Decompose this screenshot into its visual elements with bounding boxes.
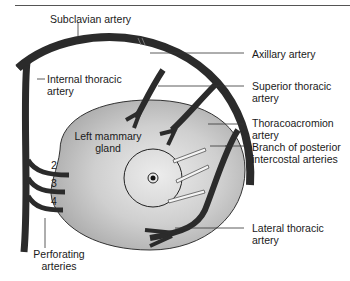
label-superior-thoracic-line1: Superior thoracic: [252, 80, 331, 92]
label-lateral-thoracic-line1: Lateral thoracic: [252, 222, 324, 234]
intercostal-number-4: 4: [51, 195, 57, 207]
label-perforating-line1: Perforating: [24, 248, 94, 260]
label-posterior-intercostal-line2: intercostal arteries: [252, 153, 338, 165]
label-thoracoacromion-line1: Thoracoacromion: [252, 117, 334, 129]
intercostal-number-2: 2: [51, 159, 57, 171]
label-internal-thoracic-line1: Internal thoracic: [47, 73, 122, 85]
label-lateral-thoracic-line2: artery: [252, 234, 279, 246]
label-superior-thoracic-line2: artery: [252, 92, 279, 104]
label-thoracoacromion-line2: artery: [252, 129, 279, 141]
label-gland-line2: gland: [68, 142, 148, 154]
intercostal-number-3: 3: [51, 177, 57, 189]
label-posterior-intercostal-line1: Branch of posterior: [252, 141, 341, 153]
label-gland-line1: Left mammary: [68, 130, 148, 142]
label-subclavian-artery: Subclavian artery: [50, 13, 131, 25]
breast-arterial-supply-diagram: Subclavian artery Internal thoracic arte…: [0, 0, 350, 281]
label-internal-thoracic-line2: artery: [47, 85, 74, 97]
internal-thoracic-artery: [24, 62, 27, 252]
label-axillary-artery: Axillary artery: [252, 48, 316, 60]
label-perforating-line2: arteries: [24, 260, 94, 272]
